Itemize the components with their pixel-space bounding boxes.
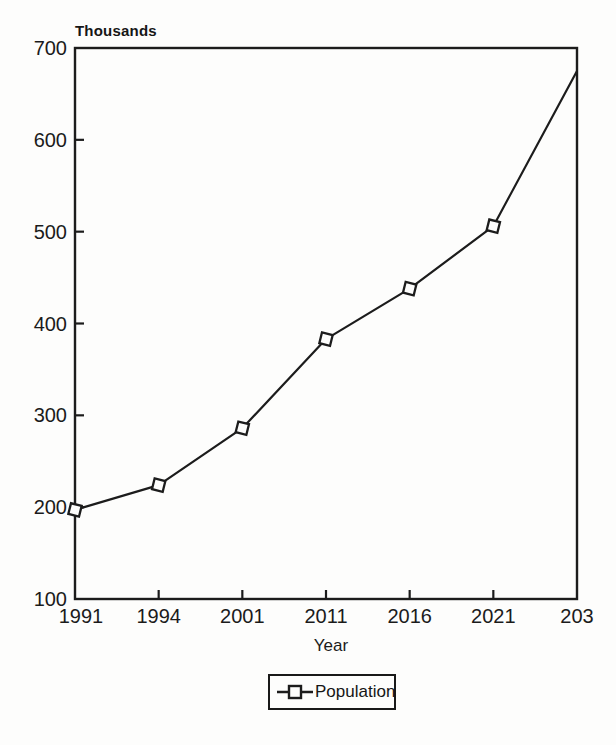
population-chart-figure: Thousands 100200300400500600700 19911994…	[0, 0, 616, 745]
data-point-marker	[236, 422, 249, 435]
x-tick-label-203: 203	[560, 605, 593, 627]
y-tick-label-300: 300	[0, 404, 67, 426]
x-axis-title: Year	[314, 636, 348, 656]
plot-frame	[75, 48, 577, 599]
plot-area	[0, 0, 616, 745]
y-tick-label-200: 200	[0, 496, 67, 518]
y-axis-unit-label: Thousands	[75, 22, 157, 39]
data-point-marker	[403, 282, 416, 295]
legend: Population	[268, 674, 396, 710]
legend-line-square-icon	[276, 684, 314, 700]
data-point-marker	[319, 332, 332, 345]
x-tick-label-1991: 1991	[59, 605, 104, 627]
y-tick-label-400: 400	[0, 313, 67, 335]
x-tick-label-2016: 2016	[387, 605, 432, 627]
y-tick-label-500: 500	[0, 221, 67, 243]
x-tick-label-2021: 2021	[471, 605, 516, 627]
x-tick-label-1994: 1994	[136, 605, 181, 627]
legend-series-label: Population	[315, 682, 395, 702]
x-tick-label-2011: 2011	[304, 605, 347, 627]
data-point-marker	[487, 219, 500, 232]
data-point-marker	[68, 503, 81, 516]
population-series-line	[75, 71, 577, 510]
y-tick-label-700: 700	[0, 37, 67, 59]
y-tick-label-600: 600	[0, 129, 67, 151]
data-point-marker	[152, 478, 165, 491]
y-tick-label-100: 100	[0, 588, 67, 610]
x-tick-label-2001: 2001	[220, 605, 265, 627]
